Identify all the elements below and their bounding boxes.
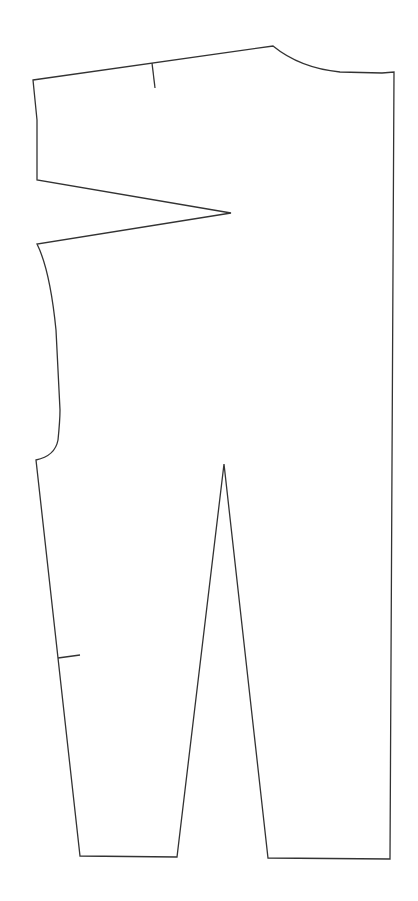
side-notch	[58, 655, 80, 658]
waist-notch	[152, 63, 155, 88]
pattern-outline	[33, 46, 394, 859]
pattern-canvas	[0, 0, 418, 901]
pattern-drawing	[0, 0, 418, 901]
